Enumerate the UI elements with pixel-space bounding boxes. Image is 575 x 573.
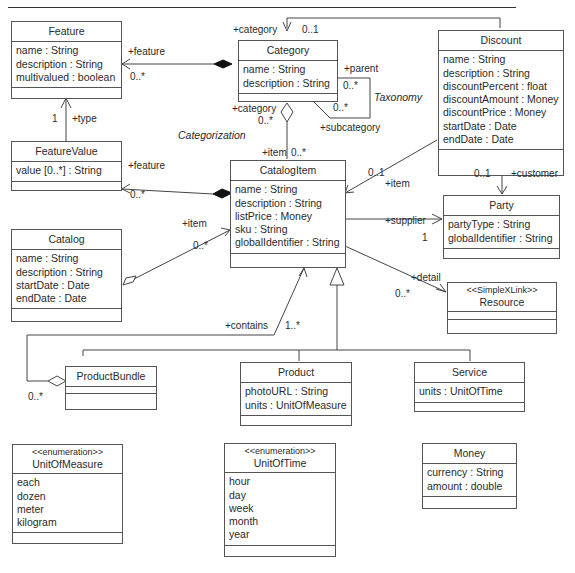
attributes: value [0..*] : String (12, 162, 121, 181)
class-catalog[interactable]: Catalog name : String description : Stri… (11, 229, 122, 322)
role-label: +item (262, 147, 287, 158)
aggregation-diamond (281, 103, 293, 122)
attribute: description : String (243, 77, 333, 90)
attributes: name : String description : String listP… (231, 181, 345, 253)
attribute: discountPercent : float (443, 80, 559, 93)
class-category[interactable]: Category name : String description : Str… (238, 40, 338, 102)
attribute: value [0..*] : String (16, 164, 117, 177)
attribute: endDate : Date (443, 133, 559, 146)
enum-literal: kilogram (17, 516, 118, 529)
association-name: Taxonomy (374, 92, 422, 103)
attribute: description : String (443, 67, 559, 80)
class-name: ProductBundle (66, 367, 156, 387)
attributes: name : String description : String (239, 61, 337, 94)
attribute: sku : String (235, 223, 341, 236)
class-name: Party (444, 196, 559, 216)
class-name: FeatureValue (12, 142, 121, 162)
attribute: photoURL : String (245, 385, 347, 398)
class-name: UnitOfMeasure (32, 458, 103, 470)
attribute: discountPrice : Money (443, 106, 559, 119)
class-name: Feature (12, 22, 121, 42)
attribute: description : String (16, 58, 117, 71)
class-resource[interactable]: <<SimpleXLink>> Resource (447, 282, 557, 334)
role-label: +parent (344, 63, 378, 74)
operations (423, 497, 516, 507)
association-name: Categorization (178, 130, 246, 141)
multiplicity-label: 1 (422, 232, 428, 243)
enum-literal: each (17, 476, 118, 489)
enum-literal: day (229, 489, 331, 502)
class-name: Discount (439, 31, 563, 51)
operations (241, 416, 351, 426)
assoc-detail (345, 246, 446, 292)
class-discount[interactable]: Discount name : String description : Str… (438, 30, 564, 176)
role-label: +contains (225, 320, 268, 331)
operations (439, 150, 563, 160)
multiplicity-label: 0..* (193, 240, 208, 251)
attribute: description : String (16, 266, 117, 279)
operations (225, 546, 335, 556)
attribute: name : String (16, 44, 117, 57)
attribute: name : String (16, 252, 117, 265)
multiplicity-label: 0..* (258, 115, 273, 126)
attribute: discountAmount : Money (443, 93, 559, 106)
assoc-catalog-item (134, 230, 230, 279)
class-name: Resource (480, 296, 525, 308)
attributes: name : String description : String start… (12, 250, 121, 309)
attributes (66, 387, 156, 394)
role-label: +supplier (385, 215, 426, 226)
generalization-triangle (330, 268, 344, 285)
operations (12, 182, 121, 192)
operations (231, 254, 345, 264)
multiplicity-label: 0..1 (474, 168, 491, 179)
class-name: Money (423, 444, 516, 464)
operations (415, 403, 524, 413)
role-label: +item (182, 218, 207, 229)
enum-literals: hour day week month year (225, 473, 335, 545)
enum-literal: year (229, 528, 331, 541)
operations (12, 88, 121, 98)
attributes: name : String description : String disco… (439, 51, 563, 150)
multiplicity-label: 0..* (28, 391, 43, 402)
attribute: amount : double (427, 480, 512, 493)
class-product[interactable]: Product photoURL : String units : UnitOf… (240, 362, 352, 426)
attribute: startDate : Date (443, 120, 559, 133)
attribute: endDate : Date (16, 292, 117, 305)
enum-literal: month (229, 515, 331, 528)
multiplicity-label: 0..* (130, 189, 145, 200)
attribute: description : String (235, 197, 341, 210)
multiplicity-label: 0..1 (368, 167, 385, 178)
class-header: <<SimpleXLink>> Resource (448, 283, 556, 312)
attribute: globalIdentifier : String (235, 236, 341, 249)
attribute: globalIdentifier : String (448, 232, 555, 245)
operations (66, 394, 156, 404)
class-service[interactable]: Service units : UnitOfTime (414, 362, 525, 412)
class-unit-of-time[interactable]: <<enumeration>> UnitOfTime hour day week… (224, 443, 336, 557)
class-feature[interactable]: Feature name : String description : Stri… (11, 21, 122, 99)
class-header: <<enumeration>> UnitOfTime (225, 444, 335, 473)
multiplicity-label: 0..* (130, 71, 145, 82)
attribute: listPrice : Money (235, 210, 341, 223)
attribute: currency : String (427, 466, 512, 479)
attribute: partyType : String (448, 218, 555, 231)
class-money[interactable]: Money currency : String amount : double (422, 443, 517, 509)
operations (444, 249, 559, 259)
class-catalog-item[interactable]: CatalogItem name : String description : … (230, 160, 346, 268)
role-label: +type (72, 113, 97, 124)
multiplicity-label: 1..* (285, 320, 300, 331)
stereotype: <<SimpleXLink>> (450, 285, 554, 296)
class-name: UnitOfTime (254, 457, 307, 469)
role-label: +item (385, 178, 410, 189)
attributes: photoURL : String units : UnitOfMeasure (241, 383, 351, 416)
attribute: name : String (235, 183, 341, 196)
operations (448, 320, 556, 330)
multiplicity-label: 0..* (395, 288, 410, 299)
class-product-bundle[interactable]: ProductBundle (65, 366, 157, 410)
class-feature-value[interactable]: FeatureValue value [0..*] : String (11, 141, 122, 191)
enum-literal: meter (17, 503, 118, 516)
role-label: +category (232, 103, 276, 114)
class-party[interactable]: Party partyType : String globalIdentifie… (443, 195, 560, 259)
operations (12, 309, 121, 319)
class-unit-of-measure[interactable]: <<enumeration>> UnitOfMeasure each dozen… (12, 444, 123, 544)
enum-literal: dozen (17, 490, 118, 503)
